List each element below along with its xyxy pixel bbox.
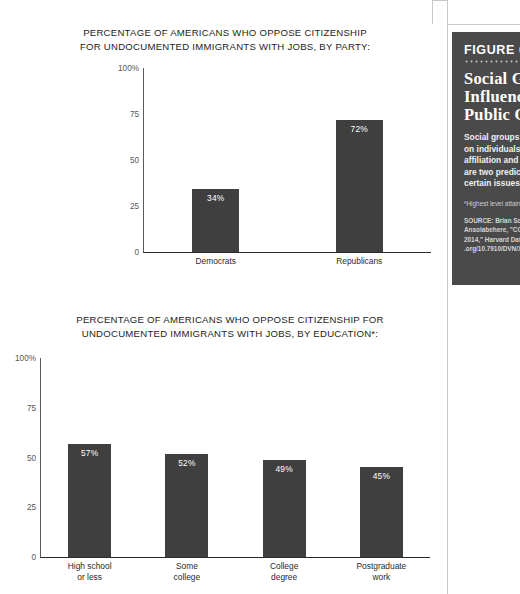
ytick-0: 0 xyxy=(134,248,144,257)
bar-slot-some-college: 52% Some college xyxy=(138,358,235,557)
figure-source-citation: SOURCE: Brian Schaffn Ansolabehere, "CCE… xyxy=(464,216,520,254)
chart-by-education-bars: 57% High school or less 52% Some college… xyxy=(41,358,430,557)
ytick-edu-25: 25 xyxy=(27,503,41,512)
xlabel-high-school-or-less: High school or less xyxy=(68,561,112,582)
figure-number-label: FIGURE 6.6 xyxy=(464,43,520,57)
figure-callout-box: FIGURE 6.6 Social G Influenc Public O So… xyxy=(452,32,520,285)
bar-value-high-school-or-less: 57% xyxy=(81,448,98,557)
bar-college-degree[interactable]: 49% xyxy=(263,460,306,558)
ytick-edu-0: 0 xyxy=(31,553,41,562)
bar-some-college[interactable]: 52% xyxy=(165,454,208,557)
chart-by-party-bars: 34% Democrats 72% Republicans xyxy=(144,68,431,252)
page-rule-horizontal-top xyxy=(447,24,520,25)
bar-slot-college-degree: 49% College degree xyxy=(236,358,333,557)
ytick-edu-100: 100% xyxy=(15,354,41,363)
chart-by-party-title: PERCENTAGE OF AMERICANS WHO OPPOSE CITIZ… xyxy=(45,26,405,53)
chart-by-education-title: PERCENTAGE OF AMERICANS WHO OPPOSE CITIZ… xyxy=(30,313,430,340)
figure-body-text: Social groups have on individuals' opi a… xyxy=(464,132,520,190)
chart-by-education-plot-area: 100% 75 50 25 0 57% High school or less … xyxy=(40,358,430,558)
figure-heading: Social G Influenc Public O xyxy=(464,70,520,124)
chart-by-party-plot-area: 100% 75 50 25 0 34% Democrats 72% Republ… xyxy=(143,68,431,253)
bar-slot-democrats: 34% Democrats xyxy=(144,68,288,252)
xlabel-some-college: Some college xyxy=(174,561,201,582)
ytick-75: 75 xyxy=(130,110,144,119)
bar-slot-republicans: 72% Republicans xyxy=(288,68,432,252)
bar-slot-high-school-or-less: 57% High school or less xyxy=(41,358,138,557)
bar-republicans[interactable]: 72% xyxy=(336,120,383,252)
xlabel-republicans: Republicans xyxy=(336,256,382,267)
bar-postgraduate-work[interactable]: 45% xyxy=(360,467,403,557)
bar-value-postgraduate-work: 45% xyxy=(373,471,390,557)
chart-by-party: PERCENTAGE OF AMERICANS WHO OPPOSE CITIZ… xyxy=(0,0,447,300)
bar-democrats[interactable]: 34% xyxy=(192,189,239,252)
ytick-100: 100% xyxy=(118,64,144,73)
bar-slot-postgraduate-work: 45% Postgraduate work xyxy=(333,358,430,557)
ytick-edu-75: 75 xyxy=(27,403,41,412)
bar-value-democrats: 34% xyxy=(207,193,224,252)
bar-value-republicans: 72% xyxy=(351,124,368,252)
xlabel-postgraduate-work: Postgraduate work xyxy=(356,561,406,582)
page-rule-vertical-right xyxy=(447,0,448,594)
bar-high-school-or-less[interactable]: 57% xyxy=(68,444,111,557)
ytick-50: 50 xyxy=(130,156,144,165)
figure-page: PERCENTAGE OF AMERICANS WHO OPPOSE CITIZ… xyxy=(0,0,520,594)
chart-by-education: PERCENTAGE OF AMERICANS WHO OPPOSE CITIZ… xyxy=(0,305,447,594)
ytick-25: 25 xyxy=(130,202,144,211)
figure-footnote: *Highest level attained. xyxy=(464,199,520,208)
xlabel-democrats: Democrats xyxy=(196,256,237,267)
xlabel-college-degree: College degree xyxy=(270,561,298,582)
dotted-divider xyxy=(464,60,520,63)
ytick-edu-50: 50 xyxy=(27,453,41,462)
bar-value-college-degree: 49% xyxy=(275,464,292,558)
bar-value-some-college: 52% xyxy=(178,458,195,557)
